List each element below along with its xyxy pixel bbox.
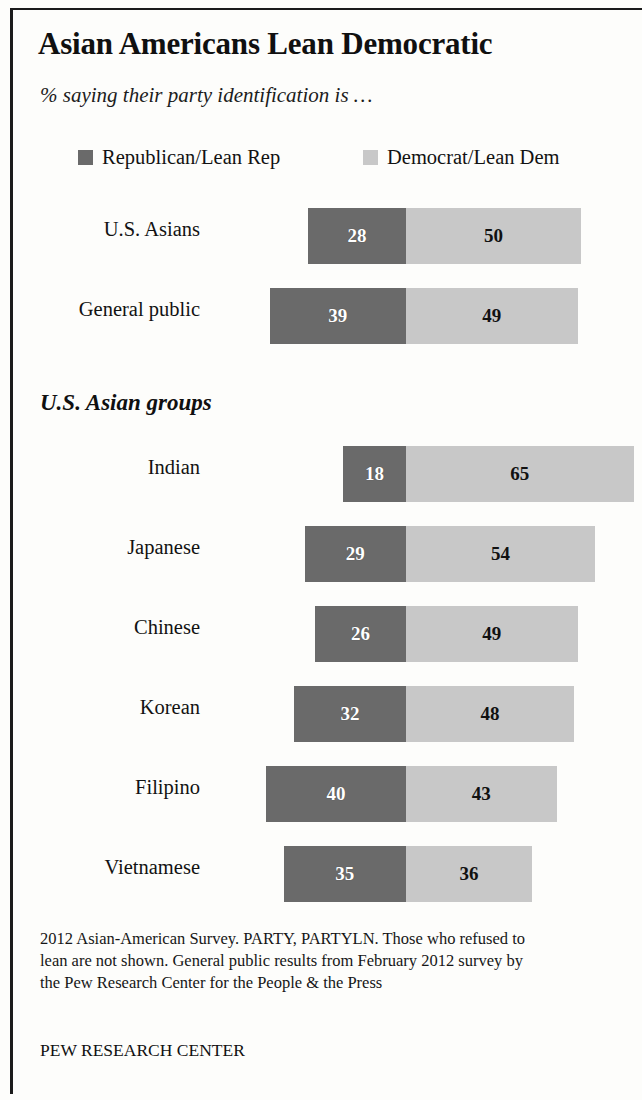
- legend-item-democrat: Democrat/Lean Dem: [363, 142, 559, 172]
- bar-segment-republican: 32: [294, 686, 406, 742]
- chart-footnote: 2012 Asian-American Survey. PARTY, PARTY…: [40, 928, 538, 994]
- section-header-asian-groups: U.S. Asian groups: [40, 390, 212, 416]
- bar-row-bars: 3949: [0, 288, 642, 344]
- chart-subtitle: % saying their party identification is …: [40, 83, 620, 108]
- chart-legend: Republican/Lean Rep Democrat/Lean Dem: [40, 142, 640, 172]
- chart-source: PEW RESEARCH CENTER: [40, 1040, 245, 1061]
- bar-row-bars: 3536: [0, 846, 642, 902]
- bar-row: General public3949: [0, 288, 642, 344]
- bar-row-bars: 2649: [0, 606, 642, 662]
- chart-page: Asian Americans Lean Democratic % saying…: [0, 0, 642, 1100]
- bar-segment-republican: 26: [315, 606, 406, 662]
- legend-swatch-republican-icon: [78, 150, 93, 165]
- chart-content: Asian Americans Lean Democratic % saying…: [0, 0, 642, 1100]
- bar-row: Indian1865: [0, 446, 642, 502]
- legend-swatch-democrat-icon: [363, 150, 378, 165]
- bar-row-bars: 2850: [0, 208, 642, 264]
- bar-row: Vietnamese3536: [0, 846, 642, 902]
- chart-title: Asian Americans Lean Democratic: [38, 26, 638, 62]
- bar-segment-democrat: 48: [406, 686, 574, 742]
- bar-segment-democrat: 54: [406, 526, 595, 582]
- legend-item-republican: Republican/Lean Rep: [78, 142, 280, 172]
- bar-row-bars: 3248: [0, 686, 642, 742]
- bar-segment-democrat: 65: [406, 446, 634, 502]
- bar-segment-republican: 35: [284, 846, 407, 902]
- bar-segment-republican: 28: [308, 208, 406, 264]
- bar-segment-democrat: 49: [406, 288, 578, 344]
- bar-row-bars: 2954: [0, 526, 642, 582]
- bar-row: U.S. Asians2850: [0, 208, 642, 264]
- bar-row-bars: 1865: [0, 446, 642, 502]
- bar-segment-republican: 39: [270, 288, 407, 344]
- bar-segment-democrat: 36: [406, 846, 532, 902]
- legend-label-democrat: Democrat/Lean Dem: [387, 146, 559, 169]
- bar-row-bars: 4043: [0, 766, 642, 822]
- bar-row: Korean3248: [0, 686, 642, 742]
- bar-row: Chinese2649: [0, 606, 642, 662]
- bar-segment-republican: 29: [305, 526, 407, 582]
- bar-segment-republican: 40: [266, 766, 406, 822]
- bar-segment-democrat: 50: [406, 208, 581, 264]
- bar-segment-democrat: 43: [406, 766, 557, 822]
- bar-segment-republican: 18: [343, 446, 406, 502]
- legend-label-republican: Republican/Lean Rep: [102, 146, 280, 169]
- bar-segment-democrat: 49: [406, 606, 578, 662]
- bar-row: Filipino4043: [0, 766, 642, 822]
- bar-row: Japanese2954: [0, 526, 642, 582]
